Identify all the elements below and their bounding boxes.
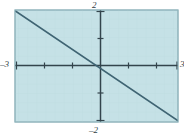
x-axis-min-label: –3 [0, 60, 9, 69]
y-axis-max-label: 2 [92, 1, 97, 10]
y-axis-min-label: –2 [89, 126, 98, 135]
x-axis-max-label: 3 [180, 60, 184, 69]
plot-canvas [0, 0, 184, 137]
graph-figure: 2 –2 –3 3 [0, 0, 184, 137]
